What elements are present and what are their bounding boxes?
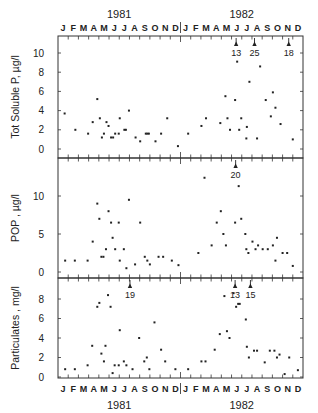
data-point (74, 260, 76, 262)
month-label: J (61, 23, 66, 33)
month-label: S (264, 23, 270, 33)
annotation-label: 13 (230, 290, 240, 300)
month-label: J (122, 23, 127, 33)
data-point (236, 61, 238, 63)
data-point (280, 123, 282, 125)
bottom-month-labels: JFMAMJJASONDJFMAMJJASOND (61, 383, 302, 394)
data-point (262, 248, 264, 250)
up-arrow-icon (248, 284, 252, 289)
month-label: O (274, 23, 281, 33)
data-point (282, 252, 284, 254)
month-label: M (202, 23, 210, 33)
data-point (103, 360, 105, 362)
month-label: A (131, 384, 138, 394)
month-label: F (71, 384, 77, 394)
month-label: J (61, 384, 66, 394)
month-label: D (172, 23, 179, 33)
data-point (264, 361, 266, 363)
data-point (200, 360, 202, 362)
month-label: S (142, 23, 148, 33)
data-point (259, 65, 261, 67)
month-label: J (122, 384, 127, 394)
data-point (187, 368, 189, 370)
annotation-label: 19 (125, 290, 135, 300)
data-point (251, 241, 253, 243)
month-label: A (213, 23, 220, 33)
month-label: A (131, 23, 138, 33)
month-label: A (90, 384, 97, 394)
data-point (284, 373, 286, 375)
data-point (245, 318, 247, 320)
month-label: J (112, 384, 117, 394)
data-point (273, 350, 275, 352)
data-point (219, 333, 221, 335)
up-arrow-icon (233, 284, 237, 289)
data-point (125, 364, 127, 366)
data-point (229, 337, 231, 339)
month-label: N (284, 384, 291, 394)
data-point (103, 133, 105, 135)
month-label: D (172, 384, 179, 394)
data-point (219, 122, 221, 124)
data-point (269, 350, 271, 352)
data-point (134, 263, 136, 265)
month-label: J (244, 384, 249, 394)
data-point (272, 91, 274, 93)
data-point (288, 357, 290, 359)
data-point (100, 353, 102, 355)
month-label: A (213, 384, 220, 394)
data-point (149, 263, 151, 265)
year-label-1982: 1982 (230, 8, 254, 20)
data-point (229, 129, 231, 131)
y-tick-label: 6 (38, 313, 44, 324)
data-point (187, 133, 189, 135)
off-scale-annotations: 13251820191315 (125, 38, 294, 300)
month-label: F (71, 23, 77, 33)
data-point (211, 244, 213, 246)
data-point (224, 95, 226, 97)
y-tick-label: 4 (38, 105, 44, 116)
data-point (128, 199, 130, 201)
data-point (245, 248, 247, 250)
data-point (118, 133, 120, 135)
data-point (256, 350, 258, 352)
data-point (255, 248, 257, 250)
month-label: M (100, 23, 108, 33)
data-point (238, 185, 240, 187)
data-point (98, 302, 100, 304)
data-point (110, 136, 112, 138)
data-point (234, 222, 236, 224)
data-point (235, 306, 237, 308)
data-point (74, 129, 76, 131)
data-point (297, 369, 299, 371)
month-label: M (223, 23, 231, 33)
data-point (92, 121, 94, 123)
y-tick-label: 6 (38, 86, 44, 97)
y-axis-labels: 0246810Tot Soluble P, µg/l0510POP , µg/l… (9, 48, 44, 383)
data-point (226, 330, 228, 332)
month-label: N (284, 23, 291, 33)
annotation-label: 13 (231, 48, 241, 58)
data-point (245, 137, 247, 139)
data-point (248, 357, 250, 359)
data-point (274, 107, 276, 109)
data-point (270, 115, 272, 117)
data-point (108, 210, 110, 212)
data-point (279, 354, 281, 356)
annotation-label: 18 (284, 48, 294, 58)
y-axis-title: POP , µg/l (9, 194, 21, 242)
up-arrow-icon (233, 164, 237, 169)
month-label: N (162, 23, 169, 33)
data-point (197, 252, 199, 254)
month-label: J (234, 384, 239, 394)
data-point (128, 110, 130, 112)
up-arrow-icon (287, 42, 291, 47)
up-arrow-icon (128, 284, 132, 289)
month-label: D (295, 23, 302, 33)
data-point (247, 252, 249, 254)
data-point (177, 145, 179, 147)
month-label: O (274, 384, 281, 394)
data-point (119, 260, 121, 262)
data-point (214, 349, 216, 351)
data-point (244, 233, 246, 235)
